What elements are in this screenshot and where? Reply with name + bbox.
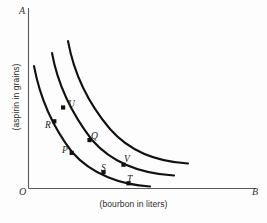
point-label-R: R	[45, 120, 51, 130]
plot-canvas	[0, 0, 267, 223]
marker-U	[61, 105, 65, 109]
point-label-S: S	[101, 163, 106, 173]
point-label-V: V	[124, 154, 130, 164]
indifference-curve-3	[68, 41, 188, 164]
y-axis-end-label: A	[19, 5, 25, 16]
point-label-U: U	[68, 99, 75, 109]
origin-label: O	[19, 186, 26, 197]
point-label-T: T	[127, 174, 132, 184]
marker-P	[70, 151, 74, 155]
point-label-Q: Q	[91, 131, 98, 141]
y-axis-title: (aspirin in grains)	[11, 37, 21, 157]
marker-R	[52, 119, 56, 123]
x-axis-title: (bourbon in liters)	[0, 199, 267, 209]
indifference-curve-figure: A B O (bourbon in liters) (aspirin in gr…	[0, 0, 267, 223]
point-label-P: P	[62, 145, 68, 155]
x-axis-end-label: B	[252, 186, 258, 197]
